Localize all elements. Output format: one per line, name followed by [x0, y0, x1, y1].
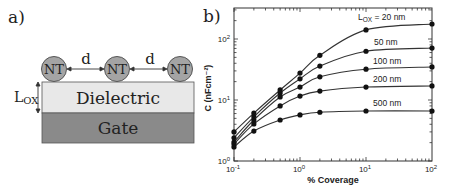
series-label: 50 nm: [374, 37, 398, 47]
spacing-label: d: [145, 50, 155, 68]
data-point: [278, 103, 283, 108]
nanotube-label: NT: [44, 62, 64, 77]
data-point: [231, 144, 236, 149]
y-tick-label: 101: [218, 95, 231, 105]
x-tick-label: 101: [359, 164, 372, 174]
data-point: [429, 45, 434, 50]
data-point: [317, 74, 322, 79]
spacing-label: d: [81, 50, 91, 68]
data-point: [231, 129, 236, 134]
series-label: 200 nm: [373, 74, 401, 84]
panel-a-schematic: a) Dielectric Gate LOX NTNTNT d d: [8, 7, 194, 143]
x-tick-label: 100: [293, 164, 306, 174]
panel-b-chart: b) 10-1100101102100101102 LOX = 20 nm50 …: [203, 6, 438, 185]
chart-axes: [234, 8, 432, 161]
plot-frame: [234, 8, 432, 161]
chart-ticks: 10-1100101102100101102: [218, 8, 438, 174]
series-line: [234, 24, 432, 132]
panel-b-label: b): [203, 6, 221, 26]
data-point: [297, 93, 302, 98]
data-point: [278, 94, 283, 99]
data-point: [317, 88, 322, 93]
data-point: [429, 64, 434, 69]
series-line: [234, 86, 432, 144]
x-tick-label: 102: [425, 164, 438, 174]
data-point: [363, 27, 368, 32]
series-label: 500 nm: [373, 98, 401, 108]
data-point: [363, 84, 368, 89]
series-label: LOX = 20 nm: [358, 12, 405, 23]
y-tick-label: 102: [218, 34, 231, 44]
thickness-label: LOX: [14, 89, 39, 106]
series-label: 100 nm: [373, 56, 401, 66]
x-axis-label: % Coverage: [307, 175, 359, 185]
data-point: [429, 21, 434, 26]
nanotube-label: NT: [170, 62, 190, 77]
data-point: [317, 110, 322, 115]
series-line: [234, 48, 432, 138]
data-point: [429, 108, 434, 113]
data-point: [278, 117, 283, 122]
data-point: [297, 76, 302, 81]
nanotube: NT: [168, 57, 193, 82]
gate-label: Gate: [98, 118, 139, 138]
x-tick-label: 10-1: [226, 164, 241, 174]
series-5: [231, 108, 434, 149]
series-4: [231, 83, 434, 146]
nanotube-label: NT: [107, 62, 127, 77]
panel-a-label: a): [8, 7, 25, 27]
data-point: [363, 49, 368, 54]
data-point: [363, 67, 368, 72]
nanotube: NT: [105, 57, 130, 82]
data-point: [251, 121, 256, 126]
y-axis-label: C (nFcm⁻²): [203, 65, 213, 112]
data-point: [297, 71, 302, 76]
series-2: [231, 45, 434, 140]
data-point: [363, 108, 368, 113]
data-point: [317, 63, 322, 68]
data-point: [251, 128, 256, 133]
dielectric-label: Dielectric: [76, 88, 160, 108]
data-point: [297, 84, 302, 89]
nanotube: NT: [42, 57, 67, 82]
series-labels: LOX = 20 nm50 nm100 nm200 nm500 nm: [358, 12, 405, 108]
figure: a) Dielectric Gate LOX NTNTNT d d: [0, 0, 451, 194]
data-point: [297, 112, 302, 117]
series-3: [231, 64, 434, 144]
data-point: [317, 53, 322, 58]
nanotube-group: NTNTNT: [42, 57, 193, 82]
chart-series: [231, 21, 434, 149]
data-point: [429, 83, 434, 88]
